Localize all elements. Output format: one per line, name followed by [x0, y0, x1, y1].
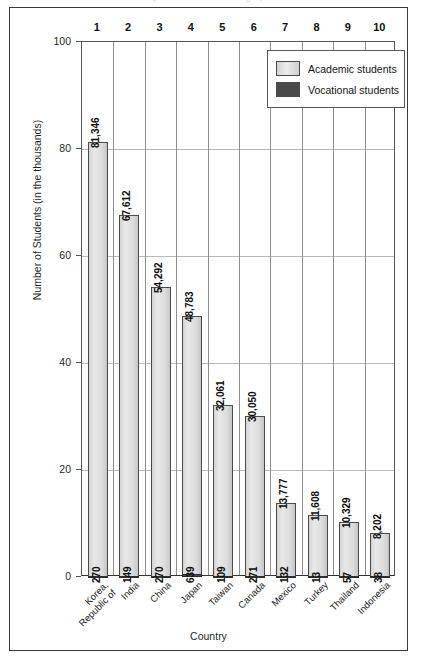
rank-label: 5	[206, 21, 238, 33]
bar-academic[interactable]	[213, 405, 233, 577]
legend-label-academic: Academic students	[308, 63, 397, 75]
bar-value-academic: 8,202	[372, 514, 383, 539]
rank-label: 2	[112, 21, 144, 33]
bar-academic[interactable]	[182, 316, 202, 577]
y-axis-tick-label: 60	[31, 249, 71, 261]
bar-academic[interactable]	[370, 533, 390, 577]
bar-value-academic: 11,608	[310, 491, 321, 521]
legend-swatch-vocational	[276, 82, 300, 97]
bar-academic[interactable]	[119, 215, 139, 577]
gridline-horizontal	[82, 149, 394, 150]
bar-value-academic: 13,777	[278, 479, 289, 510]
bar-value-academic: 67,612	[121, 191, 132, 222]
rank-label: 1	[81, 21, 113, 33]
gridline-vertical	[208, 42, 209, 575]
legend-item-vocational: Vocational students	[276, 79, 396, 100]
bar-value-academic: 81,346	[90, 117, 101, 148]
bar-academic[interactable]	[339, 522, 359, 577]
y-axis-tick-mark	[76, 148, 81, 149]
rank-label: 3	[144, 21, 176, 33]
gridline-vertical	[302, 42, 303, 575]
legend-swatch-academic	[276, 61, 300, 76]
legend-item-academic: Academic students	[276, 58, 396, 79]
rank-label: 6	[238, 21, 270, 33]
y-axis-title: Number of Students (in the thousands)	[31, 95, 43, 325]
figure-frame: Number of Students (in the thousands) Co…	[9, 7, 408, 651]
y-axis-tick-label: 80	[31, 142, 71, 154]
bar-value-academic: 48,783	[184, 291, 195, 322]
y-axis-tick-label: 40	[31, 356, 71, 368]
y-axis-tick-mark	[76, 362, 81, 363]
gridline-vertical	[333, 42, 334, 575]
bar-academic[interactable]	[88, 142, 108, 577]
gridline-vertical	[270, 42, 271, 575]
y-axis-tick-label: 100	[31, 35, 71, 47]
gridline-vertical	[113, 42, 114, 575]
y-axis-tick-mark	[76, 469, 81, 470]
y-axis-tick-mark	[76, 255, 81, 256]
legend-label-vocational: Vocational students	[308, 84, 399, 96]
y-axis-tick-label: 0	[31, 570, 71, 582]
bar-value-academic: 30,050	[247, 392, 258, 423]
bar-academic[interactable]	[245, 416, 265, 577]
y-axis-tick-mark	[76, 576, 81, 577]
plot-area	[81, 41, 395, 576]
chart-title-ghost: Top 10 Countries of Origin, 2008	[0, 0, 430, 2]
bar-value-academic: 10,329	[341, 497, 352, 528]
rank-label: 7	[269, 21, 301, 33]
rank-label: 4	[175, 21, 207, 33]
bar-value-academic: 32,061	[215, 381, 226, 412]
rank-label: 10	[363, 21, 395, 33]
clipped-title-strip: Top 10 Countries of Origin, 2008	[0, 0, 430, 7]
gridline-vertical	[365, 42, 366, 575]
y-axis-tick-mark	[76, 41, 81, 42]
gridline-vertical	[145, 42, 146, 575]
bar-academic[interactable]	[308, 515, 328, 577]
bar-academic[interactable]	[151, 287, 171, 577]
gridline-vertical	[176, 42, 177, 575]
gridline-vertical	[239, 42, 240, 575]
rank-label: 8	[301, 21, 333, 33]
y-axis-tick-label: 20	[31, 463, 71, 475]
chart-legend: Academic students Vocational students	[267, 50, 405, 108]
bar-value-academic: 54,292	[153, 262, 164, 293]
rank-label: 9	[332, 21, 364, 33]
